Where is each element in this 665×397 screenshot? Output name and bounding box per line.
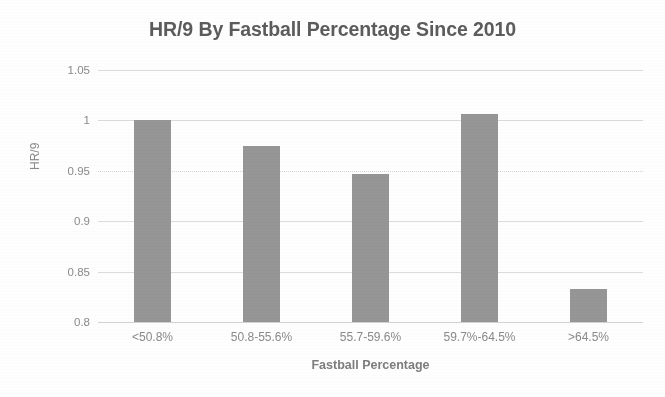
bar [461,114,498,322]
y-axis-tick-label: 1.05 [46,64,90,76]
y-axis-tick-label: 0.8 [46,316,90,328]
bar [243,146,280,322]
x-axis-tick-label: 55.7-59.6% [340,330,401,344]
x-axis-tick-label: >64.5% [568,330,609,344]
plot-area [98,70,643,322]
x-axis-title: Fastball Percentage [98,358,643,372]
gridline [98,70,643,71]
bar [134,120,171,322]
y-axis-tick-label: 1 [46,114,90,126]
x-axis-tick-label: <50.8% [132,330,173,344]
bar [570,289,607,322]
bar [352,174,389,322]
y-axis-tick-label: 0.95 [46,165,90,177]
gridline [98,120,643,121]
gridline [98,171,643,172]
bar-chart-figure: HR/9 By Fastball Percentage Since 2010 H… [0,0,665,397]
y-axis-tick-label: 0.85 [46,266,90,278]
y-axis-tick-labels: 1.0510.950.90.850.8 [40,70,90,322]
gridline [98,322,643,323]
x-axis-tick-label: 59.7%-64.5% [443,330,515,344]
x-axis-tick-labels: <50.8%50.8-55.6%55.7-59.6%59.7%-64.5%>64… [98,330,643,350]
y-axis-tick-label: 0.9 [46,215,90,227]
x-axis-tick-label: 50.8-55.6% [231,330,292,344]
chart-title: HR/9 By Fastball Percentage Since 2010 [0,18,665,41]
